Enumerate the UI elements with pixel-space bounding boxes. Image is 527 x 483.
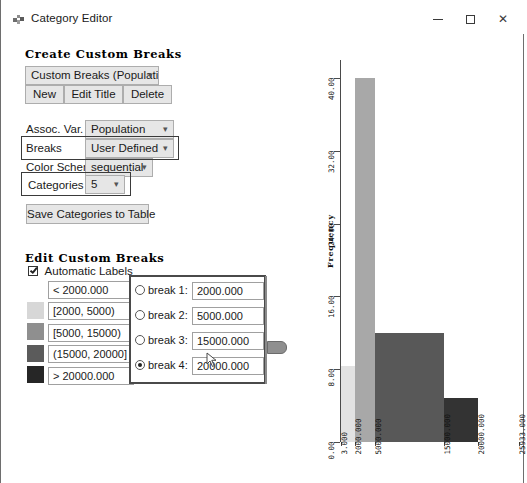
create-custom-breaks-header: Create Custom Breaks	[25, 47, 182, 61]
assoc-var-label: Assoc. Var.	[26, 123, 83, 135]
categories-highlight-box	[21, 172, 131, 196]
y-tick-label: 40.00	[327, 78, 336, 108]
checkbox-checked-icon	[28, 266, 38, 276]
x-tick-label: 20000.000	[477, 414, 486, 455]
category-label-field[interactable]: < 2000.000	[48, 281, 134, 299]
y-tick-label: 8.00	[327, 369, 336, 399]
break-label: break 1:	[148, 282, 188, 299]
break-slider-track[interactable]	[265, 276, 267, 384]
histogram-bar	[375, 333, 444, 442]
chevron-down-icon: ▾	[148, 67, 153, 84]
y-axis-label: Frequency	[325, 214, 335, 268]
window-title: Category Editor	[31, 12, 112, 24]
automatic-labels-checkbox[interactable]: Automatic Labels	[28, 265, 133, 277]
category-label-field[interactable]: (15000, 20000]	[48, 345, 134, 363]
category-color-swatch[interactable]	[27, 366, 44, 383]
y-tick-label: 16.00	[327, 296, 336, 326]
edit-title-button[interactable]: Edit Title	[64, 85, 123, 104]
break-values-panel: break 1:2000.000break 2:5000.000break 3:…	[129, 275, 266, 384]
break-radio-2[interactable]	[135, 310, 145, 320]
maximize-button[interactable]	[457, 12, 483, 26]
close-icon: ✕	[498, 12, 508, 26]
mouse-cursor-icon	[206, 352, 218, 368]
x-axis-ticks: 3.0002000.0005000.00015000.00020000.0002…	[341, 442, 521, 483]
histogram-bars	[341, 60, 519, 442]
close-button[interactable]: ✕	[490, 12, 516, 26]
break-row: break 3:15000.000	[135, 332, 264, 350]
minimize-button[interactable]	[425, 12, 451, 26]
delete-button[interactable]: Delete	[123, 85, 172, 104]
break-label: break 2:	[148, 307, 188, 324]
y-tick-label: 0.00	[327, 442, 336, 472]
break-value-input[interactable]: 5000.000	[192, 307, 264, 325]
custom-breaks-value: Custom Breaks (Population)	[31, 69, 159, 81]
histogram-bar	[355, 78, 376, 442]
frequency-histogram: 0.008.0016.0024.0032.0040.00 Frequency 3…	[301, 36, 521, 476]
automatic-labels-label: Automatic Labels	[45, 265, 133, 277]
break-label: break 3:	[148, 332, 188, 349]
break-slider-handle[interactable]	[267, 341, 287, 354]
x-tick-label: 25933.000	[518, 414, 527, 455]
chevron-down-icon: ▾	[142, 159, 147, 176]
break-radio-3[interactable]	[135, 335, 145, 345]
break-value-input[interactable]: 2000.000	[192, 282, 264, 300]
break-row: break 4:20000.000	[135, 357, 264, 375]
break-radio-1[interactable]	[135, 285, 145, 295]
x-tick-label: 5000.000	[374, 418, 383, 454]
break-radio-4[interactable]	[135, 360, 145, 370]
category-label-field[interactable]: [2000, 5000)	[48, 302, 134, 320]
category-color-swatch[interactable]	[27, 345, 44, 362]
break-value-input[interactable]: 20000.000	[192, 357, 264, 375]
save-categories-to-table-button[interactable]: Save Categories to Table	[26, 204, 149, 224]
x-tick-label: 15000.000	[442, 414, 451, 455]
y-tick-label: 32.00	[327, 150, 336, 180]
break-value-input[interactable]: 15000.000	[192, 332, 264, 350]
category-color-swatch[interactable]	[27, 302, 44, 319]
new-button[interactable]: New	[25, 85, 64, 104]
category-color-swatch[interactable]	[27, 323, 44, 340]
x-tick-label: 2000.000	[353, 418, 362, 454]
app-icon	[13, 14, 25, 25]
maximize-icon	[466, 15, 475, 24]
break-row: break 1:2000.000	[135, 282, 264, 300]
assoc-var-value: Population	[91, 123, 145, 135]
category-label-field[interactable]: > 20000.000	[48, 367, 134, 385]
x-tick-label: 3.000	[340, 432, 349, 455]
edit-custom-breaks-header: Edit Custom Breaks	[25, 251, 164, 265]
break-row: break 2:5000.000	[135, 307, 264, 325]
category-label-field[interactable]: [5000, 15000)	[48, 324, 134, 342]
minimize-icon	[433, 19, 443, 20]
window-titlebar: Category Editor ✕	[1, 0, 525, 34]
custom-breaks-dropdown[interactable]: Custom Breaks (Population) ▾	[25, 66, 159, 85]
breaks-highlight-box	[21, 136, 179, 160]
break-label: break 4:	[148, 357, 188, 374]
